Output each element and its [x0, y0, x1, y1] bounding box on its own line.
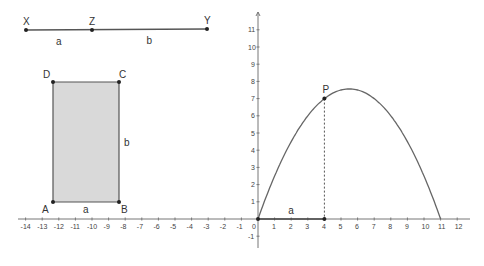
segment-a-label: a: [288, 205, 294, 216]
rectangle-polygon[interactable]: [53, 82, 119, 202]
segment-line[interactable]: [26, 29, 207, 30]
y-tick-label: 10: [248, 44, 256, 51]
point-label-y: Y: [204, 15, 211, 26]
point-label-z: Z: [89, 16, 95, 27]
x-tick-label: -7: [137, 223, 143, 230]
x-tick-label: 11: [438, 223, 445, 230]
y-tick-label: -1: [248, 233, 254, 240]
y-tick-label: 2: [251, 181, 255, 188]
x-tick-label: 7: [372, 223, 376, 230]
function-graph: Pa: [256, 84, 441, 221]
x-tick-label: -6: [153, 223, 159, 230]
point-x[interactable]: [24, 28, 28, 32]
x-tick-label: 2: [289, 223, 293, 230]
x-tick-label: 6: [355, 223, 359, 230]
x-tick-label: 1: [272, 223, 276, 230]
segment-label-a: a: [56, 36, 62, 47]
y-tick-label: 7: [251, 95, 255, 102]
x-tick-label: 0: [252, 223, 256, 230]
x-tick-label: -9: [104, 223, 110, 230]
x-tick-label: -11: [70, 223, 80, 230]
rectangle-abcd: ABCD a b: [42, 69, 130, 215]
x-tick-label: -10: [87, 223, 97, 230]
vertex-label-a: A: [42, 204, 49, 215]
x-tick-label: -5: [170, 223, 176, 230]
point-y[interactable]: [205, 27, 209, 31]
x-tick-label: 12: [455, 223, 463, 230]
x-tick-label: 8: [388, 223, 392, 230]
parabola-curve[interactable]: [258, 89, 441, 219]
point-label-x: X: [23, 16, 30, 27]
point-z[interactable]: [90, 28, 94, 32]
rectangle-side-label-a: a: [83, 204, 89, 215]
vertex-a[interactable]: [51, 200, 55, 204]
y-tick-label: 11: [248, 26, 255, 33]
x-tick-label: 9: [405, 223, 409, 230]
point-p-label: P: [322, 84, 329, 95]
point-on-x-axis[interactable]: [322, 217, 326, 221]
x-tick-label: 5: [339, 223, 343, 230]
y-tick-label: 1: [251, 198, 255, 205]
y-tick-label: 8: [251, 78, 255, 85]
segment-xy: XZY a b: [23, 15, 211, 47]
geometry-canvas: XZY a b ABCD a b -14-13-12-11-10-9-8-7-6…: [0, 0, 484, 266]
point-p[interactable]: [322, 97, 326, 101]
x-tick-label: -1: [236, 223, 242, 230]
x-tick-label: -14: [21, 223, 31, 230]
origin-point[interactable]: [256, 217, 260, 221]
vertex-c[interactable]: [117, 80, 121, 84]
x-tick-label: 10: [422, 223, 430, 230]
vertex-d[interactable]: [51, 80, 55, 84]
x-tick-label: 4: [322, 223, 326, 230]
x-tick-label: 3: [305, 223, 309, 230]
vertex-label-c: C: [119, 69, 126, 80]
x-tick-label: -4: [187, 223, 193, 230]
x-tick-label: -3: [203, 223, 209, 230]
y-tick-label: 5: [251, 130, 255, 137]
segment-label-b: b: [147, 35, 153, 46]
x-tick-label: -13: [37, 223, 47, 230]
y-tick-label: 6: [251, 112, 255, 119]
x-tick-label: -2: [220, 223, 226, 230]
rectangle-side-label-b: b: [124, 137, 130, 148]
vertex-label-d: D: [43, 69, 50, 80]
vertex-label-b: B: [121, 204, 128, 215]
x-tick-label: -8: [120, 223, 126, 230]
x-tick-label: -12: [54, 223, 64, 230]
y-tick-label: 3: [251, 164, 255, 171]
y-tick-label: 9: [251, 61, 255, 68]
y-tick-label: 4: [251, 147, 255, 154]
